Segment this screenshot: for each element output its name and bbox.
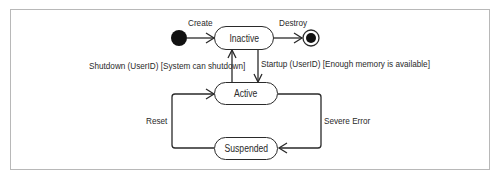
state-inactive-label: Inactive <box>229 33 259 44</box>
final-node-inner-icon <box>306 33 316 43</box>
state-suspended-label: Suspended <box>224 143 268 154</box>
transition-shutdown-label: Shutdown (UserID) [System can shutdown] <box>89 60 245 71</box>
state-inactive[interactable]: Inactive <box>214 26 274 50</box>
state-active[interactable]: Active <box>214 82 278 105</box>
transition-create-label: Create <box>188 17 213 28</box>
initial-node-icon <box>171 30 187 46</box>
transition-severe-error-label: Severe Error <box>324 115 370 126</box>
transition-reset-line <box>172 94 214 148</box>
state-suspended[interactable]: Suspended <box>214 137 278 160</box>
state-active-label: Active <box>234 88 257 99</box>
transition-reset-label: Reset <box>146 115 167 126</box>
transition-startup-label: Startup (UserID) [Enough memory is avail… <box>261 58 430 69</box>
transition-destroy-label: Destroy <box>279 17 307 28</box>
transition-severe-error-line <box>278 94 321 148</box>
